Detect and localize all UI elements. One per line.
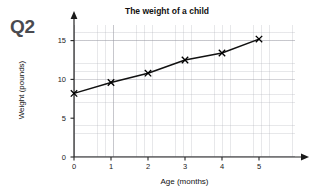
y-axis-arrowhead xyxy=(71,11,78,19)
x-tick-label-4: 4 xyxy=(214,163,230,171)
x-tick-label-3: 3 xyxy=(177,163,193,171)
x-tick-label-0: 0 xyxy=(66,163,82,171)
x-tick-label-5: 5 xyxy=(251,163,267,171)
x-tick-label-1: 1 xyxy=(103,163,119,171)
x-axis-arrowhead xyxy=(301,154,309,161)
x-tick-label-2: 2 xyxy=(140,163,156,171)
y-axis-title: Weight (pounds) xyxy=(18,40,26,140)
weight-series-line xyxy=(74,39,259,93)
chart-vector-layer xyxy=(0,0,324,195)
x-axis-title: Age (months) xyxy=(74,178,295,186)
chart-screenshot: Q2 The weight of a child xyxy=(0,0,324,195)
y-tick-label-15: 15 xyxy=(50,37,66,45)
line-chart-figure: The weight of a child xyxy=(0,0,324,195)
data-point-marker-5 xyxy=(256,36,262,42)
y-tick-label-5: 5 xyxy=(50,115,66,123)
y-tick-label-0: 0 xyxy=(50,154,66,162)
y-tick-label-10: 10 xyxy=(50,76,66,84)
